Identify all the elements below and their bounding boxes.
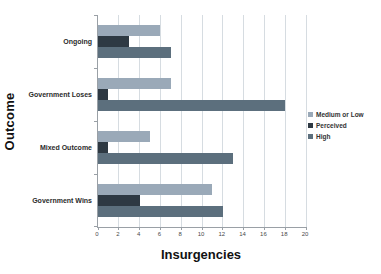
x-tick-mark-20 [306, 227, 307, 230]
plot-area [97, 15, 306, 228]
legend-entry-2: High [308, 133, 364, 140]
legend-label: High [316, 133, 330, 140]
category-label-0: Ongoing [7, 38, 92, 45]
bar-government-loses-medium-or-low [98, 78, 171, 89]
bar-government-wins-perceived [98, 195, 140, 206]
x-tick-label-4: 4 [131, 231, 147, 237]
bar-ongoing-medium-or-low [98, 25, 160, 36]
bar-mixed-outcome-high [98, 153, 233, 164]
x-tick-label-6: 6 [151, 231, 167, 237]
x-tick-mark-18 [285, 227, 286, 230]
y-axis-title: Outcome [2, 67, 17, 177]
x-tick-mark-6 [160, 227, 161, 230]
x-tick-label-14: 14 [235, 231, 251, 237]
bar-group-0 [98, 15, 306, 68]
x-tick-label-12: 12 [214, 231, 230, 237]
bar-government-loses-high [98, 100, 285, 111]
x-tick-mark-0 [98, 227, 99, 230]
x-tick-label-2: 2 [110, 231, 126, 237]
bar-ongoing-high [98, 47, 171, 58]
x-tick-mark-2 [118, 227, 119, 230]
x-tick-label-20: 20 [297, 231, 313, 237]
x-tick-label-10: 10 [193, 231, 209, 237]
x-tick-label-8: 8 [172, 231, 188, 237]
legend: Medium or LowPerceivedHigh [308, 111, 364, 144]
x-tick-mark-16 [264, 227, 265, 230]
legend-swatch-icon [308, 112, 313, 117]
category-label-1: Government Loses [7, 91, 92, 98]
bar-group-3 [98, 174, 306, 227]
x-axis-title: Insurgencies [136, 247, 266, 262]
bar-group-1 [98, 68, 306, 121]
x-tick-mark-14 [243, 227, 244, 230]
x-tick-mark-8 [181, 227, 182, 230]
x-tick-label-18: 18 [276, 231, 292, 237]
category-label-3: Government Wins [7, 197, 92, 204]
x-tick-mark-12 [222, 227, 223, 230]
bar-group-2 [98, 121, 306, 174]
bar-chart-figure: Outcome Insurgencies Medium or LowPercei… [0, 0, 381, 274]
legend-label: Perceived [316, 122, 347, 129]
bar-ongoing-perceived [98, 36, 129, 47]
bar-government-loses-perceived [98, 89, 108, 100]
x-tick-mark-10 [202, 227, 203, 230]
legend-label: Medium or Low [316, 111, 364, 118]
legend-entry-1: Perceived [308, 122, 364, 129]
x-tick-mark-4 [139, 227, 140, 230]
x-tick-label-16: 16 [255, 231, 271, 237]
x-tick-label-0: 0 [89, 231, 105, 237]
legend-entry-0: Medium or Low [308, 111, 364, 118]
bar-government-wins-medium-or-low [98, 184, 212, 195]
category-label-2: Mixed Outcome [7, 144, 92, 151]
legend-swatch-icon [308, 134, 313, 139]
legend-swatch-icon [308, 123, 313, 128]
bar-mixed-outcome-medium-or-low [98, 131, 150, 142]
bar-government-wins-high [98, 206, 223, 217]
bar-mixed-outcome-perceived [98, 142, 108, 153]
